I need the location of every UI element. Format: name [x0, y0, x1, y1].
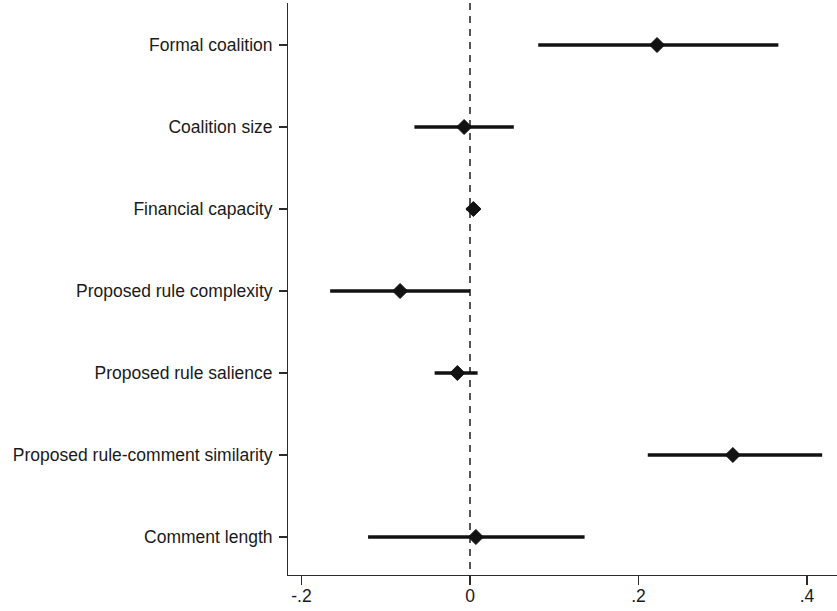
estimate-row — [538, 38, 778, 53]
x-tick-label: .2 — [631, 586, 646, 606]
coefficient-plot: Formal coalitionCoalition sizeFinancial … — [0, 0, 837, 611]
estimate-row — [330, 284, 470, 299]
category-label: Formal coalition — [149, 35, 273, 55]
category-label: Comment length — [144, 527, 272, 547]
axis-lines — [288, 3, 837, 576]
estimate-row — [466, 202, 481, 217]
axes-group — [288, 3, 837, 576]
estimate-marker — [725, 448, 740, 463]
x-tick-marks — [302, 576, 808, 585]
estimate-row — [368, 530, 585, 545]
category-label: Coalition size — [168, 117, 272, 137]
category-label: Proposed rule-comment similarity — [13, 445, 273, 465]
y-tick-marks — [279, 45, 288, 537]
category-labels: Formal coalitionCoalition sizeFinancial … — [13, 35, 273, 547]
x-tick-labels: -.20.2.4 — [291, 586, 814, 606]
estimate-marker — [650, 38, 665, 53]
estimate-row — [435, 366, 478, 381]
x-tick-label: 0 — [465, 586, 475, 606]
x-tick-label: .4 — [800, 586, 815, 606]
estimate-row — [648, 448, 822, 463]
x-tick-label: -.2 — [291, 586, 311, 606]
estimate-series — [330, 38, 822, 545]
estimate-marker — [466, 202, 481, 217]
category-label: Proposed rule complexity — [76, 281, 273, 301]
category-label: Proposed rule salience — [94, 363, 272, 383]
estimate-marker — [450, 366, 465, 381]
category-label: Financial capacity — [133, 199, 272, 219]
estimate-row — [414, 120, 513, 135]
estimate-marker — [393, 284, 408, 299]
plot-canvas: Formal coalitionCoalition sizeFinancial … — [0, 0, 837, 611]
